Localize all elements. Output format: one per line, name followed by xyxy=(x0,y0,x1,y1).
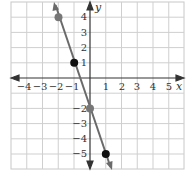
x-tick-label: 2 xyxy=(119,81,125,92)
y-tick-label: 1 xyxy=(81,57,87,68)
y-tick-label: −5 xyxy=(72,148,87,159)
y-axis-label: y xyxy=(94,1,102,14)
y-tick-label: 4 xyxy=(81,11,87,22)
x-tick-label: −4 xyxy=(17,81,32,92)
coordinate-plane: y x −4 −3 −2 −1 1 2 3 4 5 4 3 2 1 −2 −3 … xyxy=(0,0,189,176)
x-tick-label: 5 xyxy=(166,81,172,92)
y-tick-label: −3 xyxy=(72,118,87,129)
y-tick-label: 2 xyxy=(81,42,87,53)
x-tick-label: 1 xyxy=(103,81,109,92)
x-axis-label: x xyxy=(176,80,183,93)
x-tick-label: 4 xyxy=(150,81,156,92)
y-tick-label: 3 xyxy=(81,27,87,38)
y-tick-label: −4 xyxy=(72,133,87,144)
x-tick-label: 3 xyxy=(134,81,140,92)
x-tick-label: −3 xyxy=(33,81,48,92)
x-tick-label: −1 xyxy=(65,81,80,92)
point-neg1-1 xyxy=(70,59,78,67)
y-tick-label: −2 xyxy=(72,103,87,114)
point-1-neg5 xyxy=(102,150,110,158)
x-tick-label: −2 xyxy=(49,81,64,92)
point-0-neg2 xyxy=(86,104,94,112)
point-neg2-4 xyxy=(55,13,63,21)
